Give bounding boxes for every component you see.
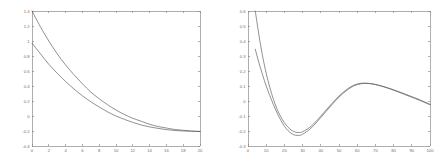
left-plot-frame: [32, 11, 200, 146]
right-curve-upper-curve: [255, 11, 430, 133]
right-x-tick-label: 70: [373, 148, 378, 153]
left-x-tick-label: 6: [81, 148, 84, 153]
left-y-tick-label: -0.2: [22, 129, 30, 134]
left-x-tick-label: 20: [198, 148, 203, 153]
right-x-tick-label: 30: [300, 148, 305, 153]
right-x-tick-label: 60: [355, 148, 360, 153]
right-x-tick-label: 40: [318, 148, 323, 153]
left-x-tick-label: 18: [181, 148, 186, 153]
right-y-tick-label: 0.3: [240, 54, 246, 59]
left-y-tick-label: 0.4: [24, 84, 30, 89]
left-curve-upper-curve: [32, 11, 200, 131]
left-x-tick-label: 2: [48, 148, 51, 153]
right-x-tick-label: 50: [337, 148, 342, 153]
right-plot-frame: [248, 11, 430, 146]
right-x-tick-label: 80: [391, 148, 396, 153]
left-plot-curves: [32, 11, 200, 132]
left-x-tick-label: 8: [98, 148, 101, 153]
left-x-tick-label: 16: [164, 148, 169, 153]
left-x-tick-label: 0: [31, 148, 34, 153]
left-y-tick-label: 0.6: [24, 69, 30, 74]
right-y-tick-label: 0.2: [240, 69, 246, 74]
left-y-tick-label: 1.4: [24, 9, 30, 14]
left-plot-panel: -0.4-0.200.20.40.60.811.21.4024681012141…: [0, 0, 220, 163]
right-x-tick-label: 20: [282, 148, 287, 153]
right-y-tick-label: -0.2: [238, 129, 246, 134]
left-y-tick-label: 0.8: [24, 54, 30, 59]
right-x-tick-label: 10: [264, 148, 269, 153]
right-x-tick-label: 0: [247, 148, 250, 153]
left-x-tick-label: 14: [147, 148, 152, 153]
right-y-tick-label: 0.5: [240, 24, 246, 29]
left-curve-lower-curve: [32, 43, 200, 131]
right-x-tick-label: 90: [409, 148, 414, 153]
right-plot-curves: [255, 11, 430, 135]
right-x-tick-label: 100: [427, 148, 435, 153]
right-plot-ticks: [248, 11, 430, 146]
left-x-tick-label: 10: [114, 148, 119, 153]
left-y-tick-label: 1: [27, 39, 30, 44]
right-plot-panel: -0.3-0.2-0.100.10.20.30.40.50.6010203040…: [220, 0, 441, 163]
left-y-tick-label: 0: [27, 114, 30, 119]
right-y-tick-label: 0.1: [240, 84, 246, 89]
left-y-tick-label: -0.4: [22, 144, 30, 149]
left-plot-ticklabels: -0.4-0.200.20.40.60.811.21.4024681012141…: [22, 9, 203, 154]
right-plot-ticklabels: -0.3-0.2-0.100.10.20.30.40.50.6010203040…: [238, 9, 434, 154]
left-plot-axes: [32, 11, 200, 146]
right-plot-axes: [248, 11, 430, 146]
left-y-tick-label: 0.2: [24, 99, 30, 104]
left-y-tick-label: 1.2: [24, 24, 30, 29]
right-y-tick-label: 0.6: [240, 9, 246, 14]
left-plot-ticks: [32, 11, 200, 146]
right-y-tick-label: 0.4: [240, 39, 246, 44]
right-y-tick-label: -0.1: [238, 114, 246, 119]
right-y-tick-label: -0.3: [238, 144, 246, 149]
figure-root: -0.4-0.200.20.40.60.811.21.4024681012141…: [0, 0, 441, 163]
right-plot-svg: -0.3-0.2-0.100.10.20.30.40.50.6010203040…: [220, 0, 441, 163]
left-x-tick-label: 4: [64, 148, 67, 153]
left-x-tick-label: 12: [130, 148, 135, 153]
left-plot-svg: -0.4-0.200.20.40.60.811.21.4024681012141…: [0, 0, 220, 163]
right-y-tick-label: 0: [243, 99, 246, 104]
